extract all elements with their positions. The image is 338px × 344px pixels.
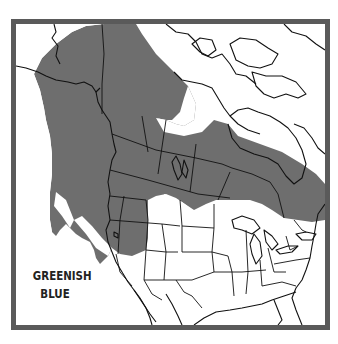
label-line-1: GREENISH	[33, 267, 77, 285]
label-line-2: BLUE	[33, 285, 77, 303]
map-frame: GREENISH BLUE	[11, 19, 330, 330]
species-label: GREENISH BLUE	[33, 267, 77, 303]
